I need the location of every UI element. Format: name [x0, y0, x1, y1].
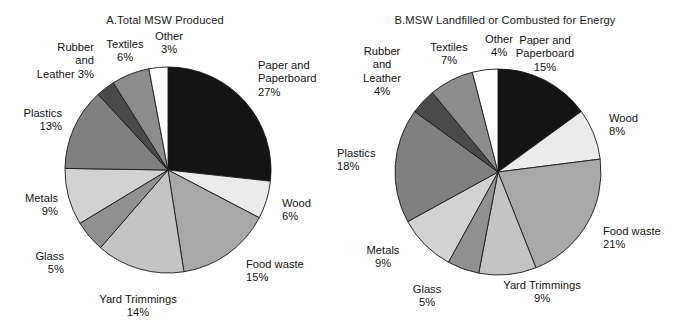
label-food-waste-b: Food waste 21% [603, 225, 673, 252]
pie-b-wrapper [394, 68, 602, 276]
pie-a-svg [64, 66, 272, 274]
pie-chart-panel-b: B.MSW Landfilled or Combusted for Energy… [337, 0, 673, 331]
label-other-a: Other 3% [146, 30, 192, 57]
label-glass-a: Glass 5% [8, 250, 64, 277]
label-yard-trimmings-b: Yard Trimmings 9% [483, 279, 601, 306]
label-wood-a: Wood 6% [282, 197, 336, 224]
pie-b-svg [394, 68, 602, 276]
label-plastics-a: Plastics 13% [0, 107, 62, 134]
pie-chart-panel-a: A.Total MSW Produced Paper and Paperboar… [0, 0, 336, 331]
pie-slice-paper-and-paperboard[interactable] [168, 67, 271, 181]
label-glass-b: Glass 5% [399, 283, 455, 310]
label-other-b: Other 4% [477, 33, 521, 60]
label-food-waste-a: Food waste 15% [246, 258, 336, 285]
chart-title-a: A.Total MSW Produced [0, 14, 333, 26]
two-pie-chart-figure: A.Total MSW Produced Paper and Paperboar… [0, 0, 673, 331]
label-paper-and-paperboard-a: Paper and Paperboard 27% [258, 59, 336, 99]
label-textiles-b: Textiles 7% [421, 41, 477, 68]
label-metals-a: Metals 9% [0, 192, 58, 219]
chart-title-b: B.MSW Landfilled or Combusted for Energy [337, 14, 673, 26]
label-plastics-b: Plastics 18% [337, 147, 395, 174]
label-metals-b: Metals 9% [353, 244, 413, 271]
label-rubber-and-leather-b: Rubber and Leather 4% [351, 45, 413, 99]
label-wood-b: Wood 8% [609, 112, 665, 139]
label-yard-trimmings-a: Yard Trimmings 14% [76, 293, 200, 320]
label-rubber-and-leather-a: Rubber and Leather 3% [10, 41, 94, 81]
label-textiles-a: Textiles 6% [97, 38, 153, 65]
pie-a-wrapper [64, 66, 272, 274]
